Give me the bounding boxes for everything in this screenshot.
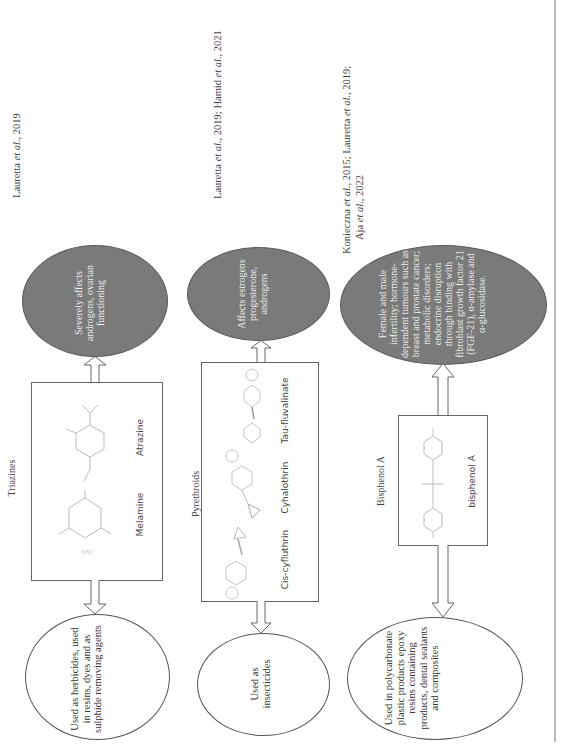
compound-label-cyhalothrin: Cyhalothrin — [280, 458, 291, 518]
class-title-triazines: Triazines — [6, 448, 18, 508]
reference-1: Lauretta et al., 2019 — [10, 88, 24, 198]
class-title-bisphenol-a: Bisphenol A — [375, 451, 387, 511]
page-margin-line — [554, 0, 556, 742]
melamine-structure-icon: NH2 — [55, 490, 115, 560]
compound-label-bisphenol-a: bisphenol A — [467, 452, 478, 512]
arrow-down-bisphenol-a — [431, 545, 455, 618]
effect-text-pyrethroids: Affects estrogens progesterone, androgen… — [236, 249, 280, 339]
arrow-up-triazines — [82, 356, 108, 383]
bisphenol-a-structure-icon — [418, 428, 448, 538]
effect-text-bisphenol-a: Female and male infertility; hormone-dep… — [377, 249, 483, 359]
use-text-bisphenol-a: Used in polycarbonate plastic products e… — [383, 623, 487, 733]
arrow-down-triazines — [82, 580, 108, 615]
arrow-up-pyrethroids — [249, 340, 273, 363]
compound-label-cis-cyfluthrin: Cis-cyfluthrin — [280, 530, 291, 590]
compound-label-melamine: Melamine — [135, 490, 146, 540]
compound-label-atrazine: Atrazine — [135, 413, 146, 463]
svg-text:NH2: NH2 — [81, 549, 93, 555]
arrow-down-pyrethroids — [249, 601, 273, 634]
use-text-pyrethroids: Used as insecticides — [249, 654, 277, 714]
reference-3: Konieczna et al., 2015; Lauretta et al.,… — [340, 34, 368, 254]
atrazine-structure-icon — [60, 395, 120, 495]
arrow-up-bisphenol-a — [431, 363, 455, 416]
tau-fluvalinate-structure-icon — [230, 365, 280, 445]
use-text-triazines: Used as herbicides, used in resins, dyes… — [69, 624, 127, 734]
class-title-pyrethroids: Pyrethroids — [190, 464, 202, 524]
compound-label-tau-fluvalinate: Tau-fluvalinate — [280, 376, 291, 446]
cyhalothrin-structure-icon — [212, 448, 272, 528]
reference-2: Lauretta et al., 2019; Hamid et al., 202… — [211, 19, 225, 199]
effect-text-triazines: Severely affects androgens, ovarian func… — [73, 253, 117, 353]
cis-cyfluthrin-structure-icon — [210, 525, 270, 600]
